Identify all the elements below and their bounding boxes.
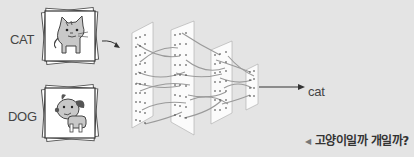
triangle-left-icon: ◀ [305, 137, 311, 146]
dog-image-card [41, 84, 98, 141]
connections [136, 33, 254, 124]
output-arrow-icon [259, 84, 305, 90]
layer-3 [211, 41, 232, 124]
caption: ◀고양이일까 개일까? [305, 131, 409, 148]
output-label: cat [308, 84, 324, 99]
layer-1 [132, 22, 153, 128]
caption-text: 고양이일까 개일까? [315, 134, 409, 148]
cat-image-card [41, 7, 98, 64]
input-arrow-icon [102, 41, 120, 48]
